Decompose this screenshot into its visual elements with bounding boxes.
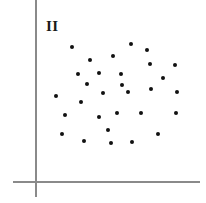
data-point <box>174 111 178 115</box>
data-point <box>85 82 89 86</box>
data-point <box>149 87 153 91</box>
data-point <box>175 90 179 94</box>
data-point <box>54 94 58 98</box>
data-point <box>63 113 67 117</box>
data-point <box>139 111 143 115</box>
data-point <box>106 128 110 132</box>
data-point <box>126 90 130 94</box>
scatter-plot-figure: II <box>0 0 206 203</box>
data-point <box>156 132 160 136</box>
data-point <box>109 141 113 145</box>
data-point <box>145 48 149 52</box>
data-point <box>148 62 152 66</box>
data-point <box>97 115 101 119</box>
data-point <box>115 111 119 115</box>
y-axis-line <box>35 0 37 197</box>
data-point <box>60 132 64 136</box>
x-axis-line <box>13 181 200 183</box>
data-point <box>130 140 134 144</box>
data-point <box>161 76 165 80</box>
data-point <box>70 45 74 49</box>
data-point <box>97 71 101 75</box>
data-point <box>79 100 83 104</box>
quadrant-label-two: II <box>46 19 59 34</box>
data-point <box>101 91 105 95</box>
data-point <box>173 63 177 67</box>
data-point <box>76 72 80 76</box>
data-point <box>120 83 124 87</box>
data-point <box>111 54 115 58</box>
data-point <box>82 139 86 143</box>
data-point <box>129 42 133 46</box>
data-point <box>119 72 123 76</box>
data-point <box>88 58 92 62</box>
